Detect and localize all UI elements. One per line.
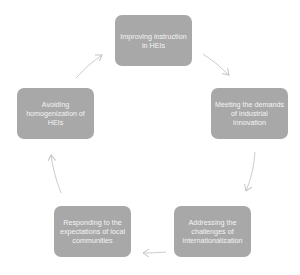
node-responding-local-communities: Responding to the expectations of local … (54, 206, 131, 257)
arrow-top-to-right (203, 54, 229, 75)
node-label: Avoiding homogenization of HEIs (20, 100, 91, 127)
arrow-bottom-left-to-left (51, 155, 61, 193)
node-improving-instruction: Improving instruction in HEIs (115, 15, 192, 66)
node-label: Meeting the demands of industrial innova… (214, 100, 285, 127)
arrow-right-to-bottom-right (246, 152, 255, 191)
node-label: Responding to the expectations of local … (57, 218, 128, 245)
node-avoiding-homogenization: Avoiding homogenization of HEIs (17, 88, 94, 139)
node-label: Improving instruction in HEIs (118, 32, 189, 50)
node-meeting-industrial-demands: Meeting the demands of industrial innova… (211, 88, 288, 139)
node-label: Addressing the challenges of internation… (177, 218, 248, 245)
arrow-left-to-top (76, 55, 102, 78)
node-addressing-internationalization: Addressing the challenges of internation… (174, 206, 251, 257)
arrow-bottom-right-to-bottom-left (143, 252, 166, 253)
